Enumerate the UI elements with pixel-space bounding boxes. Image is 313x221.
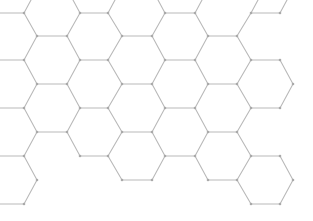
hex-vertex bbox=[279, 107, 282, 110]
hex-vertex bbox=[250, 59, 253, 62]
hex-edge bbox=[280, 0, 287, 13]
hex-edge bbox=[152, 36, 165, 60]
hex-edge bbox=[67, 60, 80, 84]
hex-vertex bbox=[151, 179, 154, 182]
hex-edge bbox=[237, 36, 251, 60]
hex-vertex bbox=[66, 131, 69, 134]
hex-vertex bbox=[207, 179, 210, 182]
hex-vertex bbox=[23, 12, 26, 15]
hex-vertex bbox=[194, 107, 197, 110]
hex-edge bbox=[280, 180, 293, 204]
hex-vertex bbox=[36, 131, 39, 134]
hex-edge bbox=[108, 36, 122, 60]
hex-edge bbox=[237, 13, 251, 36]
hex-vertex bbox=[250, 155, 253, 158]
hex-edge bbox=[237, 180, 251, 204]
hex-vertex bbox=[236, 83, 239, 86]
hex-edge bbox=[24, 108, 37, 132]
hex-vertex bbox=[236, 179, 239, 182]
hex-vertex bbox=[36, 35, 39, 38]
hex-vertex bbox=[23, 107, 26, 110]
hex-edge bbox=[24, 36, 37, 60]
hex-vertex bbox=[236, 35, 239, 38]
hex-vertex bbox=[79, 155, 82, 158]
hex-vertex bbox=[164, 155, 167, 158]
hex-vertex bbox=[121, 35, 124, 38]
hex-edge bbox=[158, 0, 165, 13]
hex-edge bbox=[237, 132, 251, 156]
hex-grid-canvas bbox=[0, 0, 313, 221]
hex-edge bbox=[67, 132, 80, 156]
hex-vertex bbox=[66, 35, 69, 38]
hex-edge bbox=[195, 13, 208, 36]
hex-edge bbox=[108, 156, 122, 180]
hex-vertex bbox=[279, 203, 282, 206]
hex-vertex bbox=[23, 155, 26, 158]
hex-edge bbox=[108, 60, 122, 84]
hex-edge bbox=[152, 13, 165, 36]
hex-vertex bbox=[36, 83, 39, 86]
hex-edge bbox=[152, 84, 165, 108]
hex-edge bbox=[237, 156, 251, 180]
hex-vertex bbox=[279, 12, 282, 15]
hex-vertex bbox=[194, 59, 197, 62]
hex-edge bbox=[152, 108, 165, 132]
hex-edge bbox=[67, 108, 80, 132]
hex-edge bbox=[24, 13, 37, 36]
hex-vertex bbox=[250, 203, 253, 206]
hex-vertex bbox=[79, 107, 82, 110]
hex-vertex bbox=[107, 59, 110, 62]
hex-edge bbox=[280, 156, 293, 180]
hex-edge bbox=[195, 36, 208, 60]
hex-edge bbox=[24, 60, 37, 84]
hex-vertex bbox=[207, 131, 210, 134]
hex-edge bbox=[195, 132, 208, 156]
hex-edge bbox=[108, 13, 122, 36]
hex-edge bbox=[24, 0, 31, 13]
hex-vertex bbox=[107, 155, 110, 158]
hex-edge bbox=[251, 0, 258, 13]
hex-vertex bbox=[79, 59, 82, 62]
hex-vertex bbox=[151, 131, 154, 134]
hex-vertex bbox=[207, 35, 210, 38]
hex-edge bbox=[237, 60, 251, 84]
hex-edge bbox=[67, 13, 80, 36]
hex-vertex bbox=[23, 203, 26, 206]
hex-edge bbox=[24, 156, 37, 180]
hex-edge bbox=[24, 84, 37, 108]
hex-vertex bbox=[79, 12, 82, 15]
hex-edge bbox=[195, 108, 208, 132]
hex-vertex bbox=[292, 179, 295, 182]
hex-edge bbox=[73, 0, 80, 13]
hex-edge bbox=[280, 60, 293, 84]
hex-edge bbox=[67, 36, 80, 60]
hex-edge bbox=[152, 60, 165, 84]
hex-vertex bbox=[250, 12, 253, 15]
hex-edge bbox=[237, 108, 251, 132]
hex-edge bbox=[195, 84, 208, 108]
hex-edge bbox=[195, 0, 202, 13]
hex-vertex bbox=[36, 179, 39, 182]
hex-edge bbox=[237, 84, 251, 108]
hex-vertex bbox=[107, 107, 110, 110]
hex-vertex bbox=[23, 59, 26, 62]
hex-vertex bbox=[164, 12, 167, 15]
hex-vertex bbox=[292, 83, 295, 86]
hex-vertex bbox=[151, 83, 154, 86]
hex-vertex bbox=[107, 12, 110, 15]
hex-vertex bbox=[194, 155, 197, 158]
hex-vertex bbox=[121, 179, 124, 182]
hex-vertex bbox=[250, 107, 253, 110]
hex-edge bbox=[108, 108, 122, 132]
hex-vertex bbox=[207, 83, 210, 86]
hex-vertex bbox=[279, 59, 282, 62]
hex-vertex bbox=[236, 131, 239, 134]
hex-edge bbox=[108, 84, 122, 108]
hex-edge bbox=[195, 156, 208, 180]
hex-edge bbox=[67, 84, 80, 108]
hex-edge bbox=[195, 60, 208, 84]
hex-edge bbox=[24, 132, 37, 156]
hex-vertex bbox=[194, 12, 197, 15]
hex-edge bbox=[152, 132, 165, 156]
hex-edge bbox=[280, 84, 293, 108]
